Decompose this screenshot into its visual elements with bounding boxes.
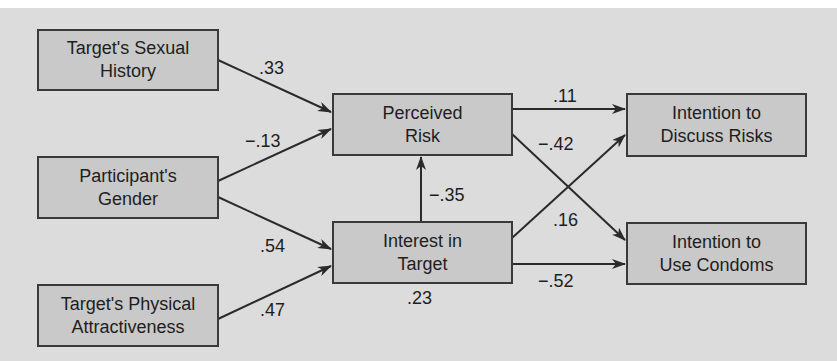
node-label: Participant's (79, 165, 176, 188)
node-intention-use-condoms: Intention to Use Condoms (626, 222, 807, 285)
node-participant-gender: Participant's Gender (37, 156, 219, 219)
r-squared-interest: .23 (407, 288, 432, 308)
coef-sexual-history-risk: .33 (259, 58, 284, 78)
node-label: Discuss Risks (660, 125, 772, 148)
node-label: Use Condoms (659, 254, 773, 277)
node-physical-attractiveness: Target's Physical Attractiveness (37, 284, 219, 347)
node-label: Perceived (382, 102, 462, 125)
node-label: History (100, 60, 156, 83)
node-label: Gender (98, 188, 158, 211)
node-label: Target's Sexual (67, 37, 190, 60)
node-label: Interest in (383, 230, 462, 253)
node-intention-discuss-risks: Intention to Discuss Risks (626, 93, 807, 157)
node-label: Target (397, 253, 447, 276)
node-label: Intention to (672, 231, 761, 254)
coef-gender-risk: −.13 (245, 131, 281, 151)
coef-risk-discuss: .11 (553, 86, 577, 106)
node-perceived-risk: Perceived Risk (332, 93, 513, 156)
node-label: Attractiveness (71, 316, 184, 339)
coef-interest-condoms: −.52 (538, 271, 574, 291)
node-label: Risk (405, 125, 440, 148)
node-label: Target's Physical (61, 293, 196, 316)
coef-risk-condoms: −.42 (538, 134, 574, 154)
coef-interest-discuss: .16 (553, 210, 578, 230)
node-sexual-history: Target's Sexual History (37, 29, 219, 91)
node-interest-in-target: Interest in Target (332, 221, 513, 284)
coef-interest-risk: −.35 (429, 185, 465, 205)
coef-attractiveness-interest: .47 (260, 300, 285, 320)
node-label: Intention to (672, 102, 761, 125)
coef-gender-interest: .54 (260, 236, 285, 256)
